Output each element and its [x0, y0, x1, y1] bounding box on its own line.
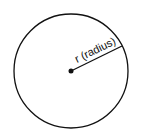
- center-point: [69, 69, 74, 74]
- radius-label: r (radius): [73, 35, 118, 65]
- circle-diagram: r (radius): [0, 0, 142, 137]
